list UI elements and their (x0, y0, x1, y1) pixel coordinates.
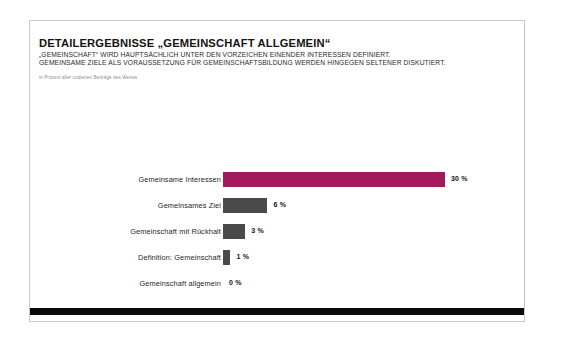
bar-value-label: 30 % (451, 175, 468, 182)
subtitle-line-2: GEMEINSAME ZIELE ALS VORAUSSETZUNG FÜR G… (39, 59, 514, 67)
bar-track: 0 % (223, 276, 516, 291)
header-block: DETAILERGEBNISSE „GEMEINSCHAFT ALLGEMEIN… (39, 37, 514, 81)
slide-card: DETAILERGEBNISSE „GEMEINSCHAFT ALLGEMEIN… (29, 20, 525, 322)
bar-category-label: Definition: Gemeinschaft (31, 253, 221, 262)
bar-row: Gemeinschaft mit Rückhalt3 % (30, 223, 524, 249)
bar-category-label: Gemeinschaft mit Rückhalt (31, 227, 221, 236)
page-title: DETAILERGEBNISSE „GEMEINSCHAFT ALLGEMEIN… (39, 37, 514, 50)
bar-row: Definition: Gemeinschaft1 % (30, 249, 524, 275)
footer-bar (30, 308, 524, 315)
source-note: in Prozent aller codierten Beiträge des … (39, 75, 514, 81)
bar-category-label: Gemeinsame Interessen (31, 175, 221, 184)
bar-category-label: Gemeinschaft allgemein (31, 279, 221, 288)
bar-track: 3 % (223, 224, 516, 239)
bar-track: 1 % (223, 250, 516, 265)
bar-value-label: 6 % (273, 201, 286, 208)
bar-row: Gemeinsame Interessen30 % (30, 171, 524, 197)
bar-value-label: 3 % (251, 227, 264, 234)
bar-fill (223, 172, 445, 187)
bar-fill (223, 198, 267, 213)
bar-value-label: 0 % (229, 279, 242, 286)
bar-fill (223, 250, 230, 265)
bar-category-label: Gemeinsames Ziel (31, 201, 221, 210)
bar-row: Gemeinsames Ziel6 % (30, 197, 524, 223)
bar-track: 6 % (223, 198, 516, 213)
bar-chart: Gemeinsame Interessen30 %Gemeinsames Zie… (30, 171, 524, 301)
bar-value-label: 1 % (236, 253, 249, 260)
subtitle-line-1: „GEMEINSCHAFT“ WIRD HAUPTSÄCHLICH UNTER … (39, 51, 514, 59)
bar-row: Gemeinschaft allgemein0 % (30, 275, 524, 301)
bar-track: 30 % (223, 172, 516, 187)
bar-fill (223, 224, 245, 239)
subtitle-block: „GEMEINSCHAFT“ WIRD HAUPTSÄCHLICH UNTER … (39, 51, 514, 67)
